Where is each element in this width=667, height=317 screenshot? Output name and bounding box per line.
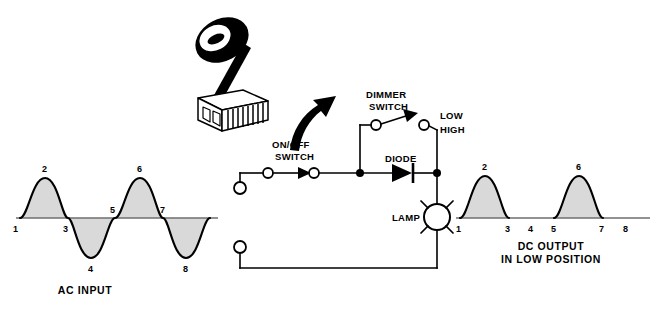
dc-output-fill	[460, 176, 509, 218]
dimmer-switch-contact-low[interactable]	[419, 120, 429, 130]
dc-tick-4: 4	[528, 224, 533, 234]
ac-tick-4: 4	[88, 264, 93, 274]
dc-output-chart: 1 2 3 4 5 6 7 8 DC OUTPUT IN LOW POSITIO…	[456, 162, 650, 265]
on-off-switch-label-line1: ON/OFF	[272, 139, 310, 150]
dc-tick-6: 6	[576, 162, 581, 172]
dc-output-title: DC OUTPUT	[518, 240, 585, 252]
dc-tick-1: 1	[456, 224, 461, 234]
input-terminal-bottom[interactable]	[234, 241, 246, 253]
ac-tick-1: 1	[13, 224, 18, 234]
dc-tick-8: 8	[623, 224, 628, 234]
lamp-label: LAMP	[392, 212, 420, 223]
ac-tick-3: 3	[63, 224, 68, 234]
wire-dimmer-right-top	[429, 126, 437, 130]
dimmer-switch-pivot[interactable]	[371, 120, 381, 130]
input-terminal-top[interactable]	[234, 182, 246, 194]
desk-lamp	[187, 8, 268, 131]
dc-tick-3: 3	[505, 224, 510, 234]
diagram-root: 1 2 3 4 5 6 7 8 AC INPUT	[0, 0, 667, 317]
dimmer-switch-label-line2: SWITCH	[369, 101, 408, 112]
ac-input-fill	[68, 218, 115, 258]
ac-tick-5: 5	[110, 205, 115, 215]
on-off-switch-terminal-right[interactable]	[309, 168, 319, 178]
dimmer-switch-label-line1: DIMMER	[366, 89, 406, 100]
ac-tick-7: 7	[160, 205, 165, 215]
ac-input-fill	[115, 178, 163, 218]
ac-tick-8: 8	[183, 264, 188, 274]
ac-input-chart: 1 2 3 4 5 6 7 8 AC INPUT	[13, 164, 218, 296]
dc-tick-2: 2	[482, 162, 487, 172]
on-off-switch-label-line2: SWITCH	[275, 151, 314, 162]
dc-output-subtitle: IN LOW POSITION	[501, 253, 601, 265]
low-label: LOW	[440, 110, 463, 121]
ac-tick-2: 2	[42, 164, 47, 174]
dc-output-fill	[554, 176, 603, 218]
diode-triangle	[392, 164, 412, 182]
ac-input-title: AC INPUT	[58, 284, 112, 296]
on-off-switch-arrow	[274, 167, 311, 179]
on-off-switch-terminal-left[interactable]	[263, 168, 273, 178]
ac-input-fill	[163, 218, 210, 258]
dc-tick-7: 7	[599, 224, 604, 234]
ac-input-fill	[20, 178, 68, 218]
diode-label: DIODE	[385, 153, 417, 164]
ac-tick-6: 6	[137, 164, 142, 174]
high-label: HIGH	[440, 124, 465, 135]
dc-tick-5: 5	[551, 224, 556, 234]
